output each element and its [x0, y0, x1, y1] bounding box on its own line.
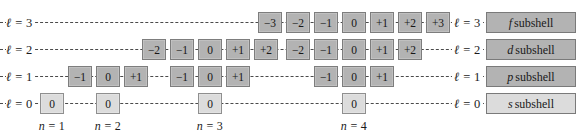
- m-box: +3: [426, 12, 450, 33]
- n-label-3: n = 3: [180, 118, 240, 134]
- m-box: 0: [342, 12, 366, 33]
- n-label-2: n = 2: [78, 118, 138, 134]
- ell-label-right-0: ℓ = 0: [452, 91, 483, 117]
- ell-label-left-1: ℓ = 1: [6, 64, 35, 90]
- subshell-legend-f: fsubshell: [486, 12, 576, 33]
- ell-label-right-1: ℓ = 1: [452, 64, 483, 90]
- m-box: 0: [198, 39, 222, 60]
- m-box: +2: [254, 39, 278, 60]
- ell-label-right-3: ℓ = 3: [452, 10, 483, 36]
- m-box: +1: [370, 12, 394, 33]
- row-0-dashed-line: [0, 103, 514, 104]
- subshell-word: subshell: [515, 43, 554, 57]
- m-box: +2: [398, 39, 422, 60]
- m-box: −1: [314, 12, 338, 33]
- subshell-word: subshell: [515, 97, 554, 111]
- subshell-legend-p: psubshell: [486, 66, 576, 87]
- n-label-1: n = 1: [22, 118, 82, 134]
- m-box: −1: [314, 66, 338, 87]
- row-ell-0: ℓ = 0 0 0 0 0 ℓ = 0: [0, 91, 514, 117]
- ell-label-left-3: ℓ = 3: [6, 10, 35, 36]
- ell-label-right-2: ℓ = 2: [452, 37, 483, 63]
- row-ell-3: ℓ = 3 −3 −2 −1 0 +1 +2 +3 ℓ = 3: [0, 10, 514, 36]
- n-label-4: n = 4: [324, 118, 384, 134]
- m-box: −1: [170, 39, 194, 60]
- m-box: −1: [170, 66, 194, 87]
- m-box: −1: [68, 66, 92, 87]
- m-box: +2: [398, 12, 422, 33]
- ell-label-left-0: ℓ = 0: [6, 91, 35, 117]
- m-box: +1: [124, 66, 148, 87]
- row-ell-2: ℓ = 2 −2 −1 0 +1 +2 −2 −1 0 +1 +2 ℓ = 2: [0, 37, 514, 63]
- m-box: +1: [370, 39, 394, 60]
- m-box: 0: [198, 93, 222, 114]
- m-box: 0: [96, 93, 120, 114]
- m-box: −3: [258, 12, 282, 33]
- m-box: −1: [314, 39, 338, 60]
- m-box: 0: [198, 66, 222, 87]
- m-box: −2: [142, 39, 166, 60]
- m-box: +1: [226, 39, 250, 60]
- m-box: +1: [226, 66, 250, 87]
- subshell-legend-d: dsubshell: [486, 39, 576, 60]
- m-box: 0: [342, 66, 366, 87]
- subshell-letter: s: [508, 97, 515, 111]
- m-box: 0: [40, 93, 64, 114]
- subshell-word: subshell: [514, 16, 553, 30]
- m-box: 0: [342, 93, 366, 114]
- subshell-legend-s: ssubshell: [486, 93, 576, 114]
- row-ell-1: ℓ = 1 −1 0 +1 −1 0 +1 −1 0 +1 ℓ = 1: [0, 64, 514, 90]
- m-box: −2: [286, 39, 310, 60]
- m-box: 0: [342, 39, 366, 60]
- m-box: +1: [370, 66, 394, 87]
- ell-label-left-2: ℓ = 2: [6, 37, 35, 63]
- m-box: 0: [96, 66, 120, 87]
- m-box: −2: [286, 12, 310, 33]
- subshell-word: subshell: [515, 70, 554, 84]
